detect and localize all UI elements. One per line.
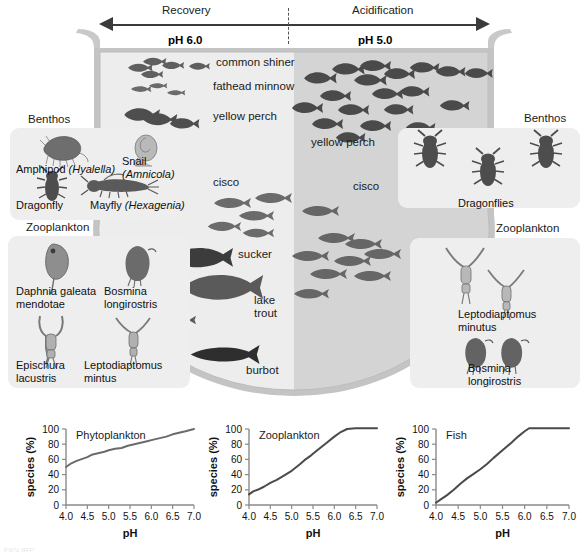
- zooplankton-left-species-3: Leptodiaptomus mintus: [84, 359, 162, 384]
- zooplankton-left-species-2: Epischura lacustris: [16, 359, 65, 384]
- y-tick-label: 20: [48, 484, 60, 495]
- fish-label-cisco-right: cisco: [353, 180, 379, 193]
- dragonfly-nymph-icon-3: [530, 130, 562, 168]
- x-tick-label: 4.5: [80, 511, 94, 522]
- benthos-right-species-0: Dragonflies: [458, 197, 514, 210]
- y-tick-label: 80: [48, 439, 60, 450]
- y-tick-label: 0: [423, 500, 429, 511]
- chart-xlabel: pH: [495, 527, 510, 539]
- zooplankton-left-species-0: Daphnia galeata mendotae: [16, 285, 96, 310]
- y-tick-label: 100: [225, 424, 242, 435]
- y-tick-label: 40: [231, 469, 243, 480]
- chart-xlabel: pH: [306, 527, 321, 539]
- benthos-right-box: [398, 128, 580, 208]
- x-tick-label: 6.5: [349, 511, 363, 522]
- y-tick-label: 60: [231, 454, 243, 465]
- x-tick-label: 6.5: [166, 511, 180, 522]
- y-tick-label: 0: [53, 500, 59, 511]
- figure-caption: FIGURE: [4, 546, 154, 552]
- x-tick-label: 4.5: [263, 511, 277, 522]
- fish-label-yellow-perch-right: yellow perch: [311, 136, 375, 149]
- x-tick-label: 7.0: [187, 511, 201, 522]
- x-tick-label: 5.5: [123, 511, 137, 522]
- y-tick-label: 80: [418, 439, 430, 450]
- x-tick-label: 5.0: [285, 511, 299, 522]
- chart-zooplankton: 0204060801004.04.55.05.56.06.57.0Zooplan…: [205, 411, 385, 551]
- y-tick-label: 100: [412, 424, 429, 435]
- x-tick-label: 5.0: [473, 511, 487, 522]
- x-tick-label: 6.0: [518, 511, 532, 522]
- bosmina-icon: [126, 246, 157, 287]
- fish-label-lake: lake: [254, 294, 275, 307]
- acidification-figure: Recovery Acidification pH 6.0 pH 5.0: [0, 0, 588, 553]
- y-tick-label: 20: [231, 484, 243, 495]
- x-tick-label: 4.0: [429, 511, 443, 522]
- fish-label-fathead-minnow: fathead minnow: [213, 80, 294, 93]
- zooplankton-left-species-1: Bosmina longirostris: [104, 285, 157, 310]
- zooplankton-right-title: Zooplankton: [496, 222, 559, 234]
- benthos-left-species-0: Amphipod (Hyalella): [16, 163, 115, 176]
- dragonfly-nymph-icon-2: [472, 148, 504, 186]
- chart-phytoplankton: 0204060801004.04.55.05.56.06.57.0Phytopl…: [22, 411, 202, 551]
- x-tick-label: 6.0: [327, 511, 341, 522]
- y-tick-label: 20: [418, 484, 430, 495]
- benthos-left-species-2: Dragonfly: [16, 199, 63, 212]
- dragonfly-nymph-icon-1: [414, 130, 446, 168]
- y-tick-label: 100: [42, 424, 59, 435]
- zooplankton-right-species-0: Leptodiaptomus minutus: [458, 308, 536, 333]
- chart-plot-area: 0204060801004.04.55.05.56.06.57.0Zooplan…: [205, 411, 385, 551]
- x-tick-label: 4.5: [451, 511, 465, 522]
- chart-title: Phytoplankton: [76, 429, 146, 441]
- x-tick-label: 4.0: [59, 511, 73, 522]
- x-tick-label: 7.0: [370, 511, 384, 522]
- chart-plot-area: 0204060801004.04.55.05.56.06.57.0Phytopl…: [22, 411, 202, 551]
- zooplankton-left-title: Zooplankton: [26, 221, 89, 233]
- leptodiaptomus-icon-1: [446, 248, 484, 304]
- benthos-left-species-3: Mayfly (Hexagenia): [90, 199, 185, 212]
- fish-label-trout: trout: [254, 307, 277, 320]
- chart-ylabel: species (%): [24, 436, 36, 497]
- x-tick-label: 5.5: [306, 511, 320, 522]
- benthos-left-species-1: Snail (Amnicola): [122, 155, 175, 180]
- benthos-right-title: Benthos: [524, 112, 566, 124]
- fish-label-sucker: sucker: [238, 248, 272, 261]
- chart-title: Zooplankton: [259, 429, 320, 441]
- y-tick-label: 40: [418, 469, 430, 480]
- y-tick-label: 0: [236, 500, 242, 511]
- chart-xlabel: pH: [123, 527, 138, 539]
- chart-fish: 0204060801004.04.55.05.56.06.57.0Fishspe…: [392, 411, 577, 551]
- x-tick-label: 7.0: [562, 511, 576, 522]
- y-tick-label: 80: [231, 439, 243, 450]
- fish-label-burbot: burbot: [246, 364, 279, 377]
- x-tick-label: 5.5: [496, 511, 510, 522]
- y-tick-label: 60: [418, 454, 430, 465]
- benthos-left-title: Benthos: [28, 113, 70, 125]
- y-tick-label: 60: [48, 454, 60, 465]
- chart-ylabel: species (%): [207, 436, 219, 497]
- x-tick-label: 6.0: [144, 511, 158, 522]
- y-tick-label: 40: [48, 469, 60, 480]
- x-tick-label: 5.0: [102, 511, 116, 522]
- benthos-right-icons: [398, 128, 580, 208]
- chart-ylabel: species (%): [394, 436, 406, 497]
- x-tick-label: 4.0: [242, 511, 256, 522]
- chart-title: Fish: [446, 429, 467, 441]
- fish-label-yellow-perch-left: yellow perch: [213, 110, 277, 123]
- chart-plot-area: 0204060801004.04.55.05.56.06.57.0Fishspe…: [392, 411, 577, 551]
- x-tick-label: 6.5: [540, 511, 554, 522]
- fish-label-cisco-left: cisco: [213, 176, 239, 189]
- zooplankton-right-species-1: Bosmina longirostris: [468, 362, 521, 387]
- fish-label-common-shiner: common shiner: [216, 56, 295, 69]
